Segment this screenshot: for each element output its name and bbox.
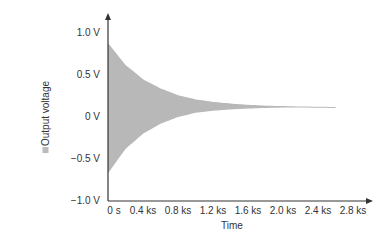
x-tick-label: 2.0 ks bbox=[270, 206, 297, 216]
decaying-oscillation-area bbox=[108, 43, 336, 173]
x-tick-label: 0 s bbox=[107, 206, 120, 216]
y-axis-arrow-icon bbox=[105, 13, 111, 20]
x-tick-label: 2.8 ks bbox=[340, 206, 367, 216]
y-tick-label: 1.0 V bbox=[50, 28, 100, 38]
x-tick-label: 1.6 ks bbox=[235, 206, 262, 216]
y-tick-label: −1.0 V bbox=[50, 196, 100, 206]
x-tick-label: 0.8 ks bbox=[165, 206, 192, 216]
x-tick-label: 1.2 ks bbox=[200, 206, 227, 216]
x-axis-arrow-icon bbox=[366, 198, 373, 204]
y-axis-label-text: Output voltage bbox=[40, 81, 51, 146]
y-tick-label: −0.5 V bbox=[50, 154, 100, 164]
y-tick-label: 0 V bbox=[50, 112, 100, 122]
y-axis-label: Output voltage bbox=[40, 81, 51, 153]
y-tick-label: 0.5 V bbox=[50, 70, 100, 80]
x-axis-label: Time bbox=[221, 220, 243, 231]
legend-marker-icon bbox=[43, 147, 49, 153]
x-tick-label: 0.4 ks bbox=[130, 206, 157, 216]
x-tick-label: 2.4 ks bbox=[305, 206, 332, 216]
